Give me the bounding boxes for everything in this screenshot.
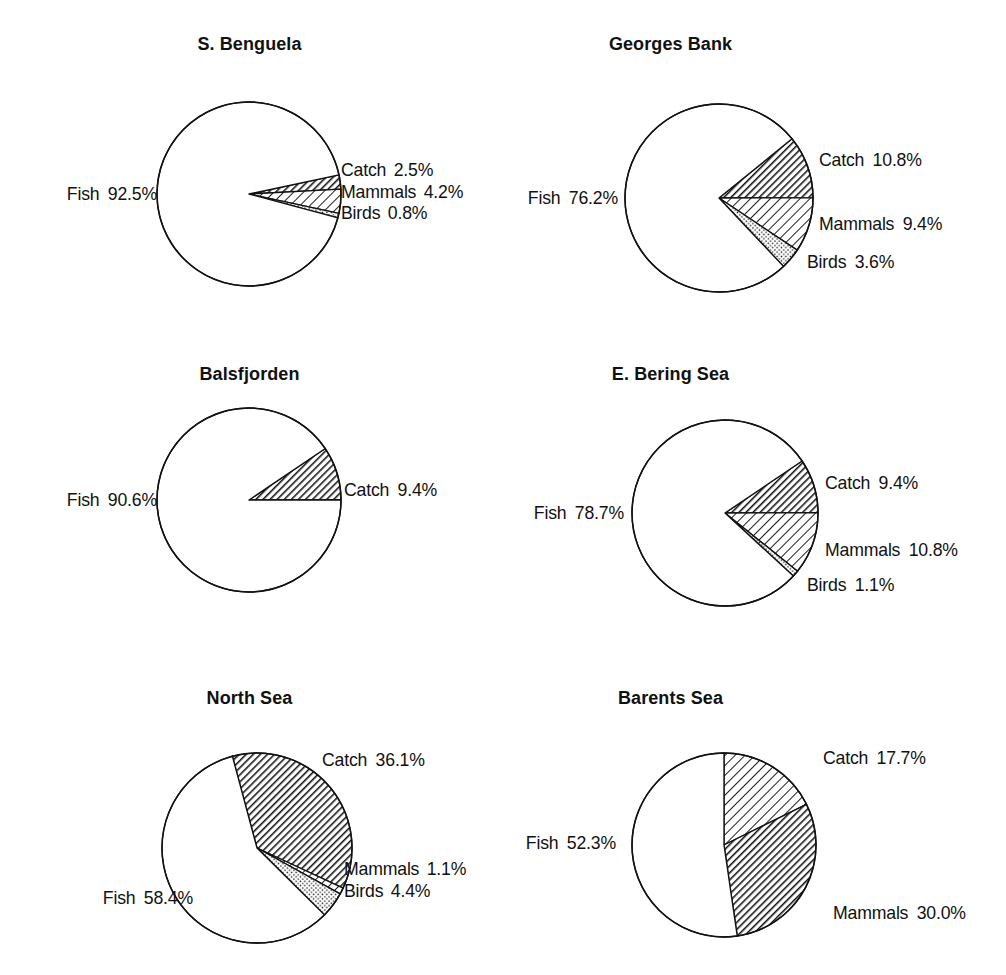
slice-name: Fish	[526, 833, 559, 853]
slice-value: 92.5%	[108, 184, 157, 204]
slice-name: Catch	[819, 150, 864, 170]
slice-name: Mammals	[341, 181, 416, 203]
slice-name: Birds	[807, 252, 846, 272]
pie-stage	[503, 330, 1006, 660]
panel-georges-bank: Georges Bank Fish76.2% Catch10.8% Mammal…	[503, 0, 1006, 330]
slice-label-mammals: Mammals4.2%	[341, 181, 463, 203]
slice-name: Catch	[322, 750, 367, 770]
slice-value: 58.4%	[144, 888, 193, 908]
slice-value: 90.6%	[108, 490, 157, 510]
slice-label-group: Catch2.5% Mammals4.2% Birds0.8%	[341, 159, 472, 224]
slice-name: Fish	[67, 184, 100, 204]
slice-label-catch: Catch10.8%	[819, 150, 922, 170]
slice-value: 9.4%	[398, 480, 438, 500]
pie-svg-e-bering-sea	[503, 330, 1006, 660]
slice-value: 52.3%	[567, 833, 616, 853]
slice-label-mammals: Mammals30.0%	[833, 903, 966, 923]
pie-slice-fish	[157, 408, 341, 592]
slice-label-birds: Birds4.4%	[344, 880, 466, 902]
slice-label-mammals: Mammals1.1%	[344, 858, 466, 880]
slice-value: 0.8%	[388, 202, 428, 224]
slice-label-catch: Catch9.4%	[344, 480, 437, 500]
pie-stage	[503, 660, 1006, 975]
pie-chart-figure: S. Benguela Fish92.5% Catch2.5% Mammals4…	[0, 0, 1006, 975]
panel-barents-sea: Barents Sea Fish52.3% Catch17.7% Mammals…	[503, 660, 1006, 975]
slice-label-mammals: Mammals10.8%	[825, 540, 958, 560]
slice-label-fish: Fish92.5%	[67, 184, 157, 204]
pie-svg-barents-sea	[503, 660, 1006, 975]
slice-label-fish: Fish76.2%	[528, 188, 618, 208]
slice-name: Fish	[67, 490, 100, 510]
slice-label-catch: Catch17.7%	[823, 748, 926, 768]
slice-value: 1.1%	[427, 858, 467, 880]
slice-value: 30.0%	[917, 903, 966, 923]
slice-value: 9.4%	[903, 214, 943, 234]
slice-name: Mammals	[344, 858, 419, 880]
panel-e-bering-sea: E. Bering Sea Fish78.7% Catch9.4% Mammal…	[503, 330, 1006, 660]
slice-name: Mammals	[833, 903, 908, 923]
slice-name: Mammals	[825, 540, 900, 560]
slice-label-fish: Fish58.4%	[103, 888, 193, 908]
pie-slice-fish	[632, 753, 737, 937]
slice-label-fish: Fish78.7%	[534, 503, 624, 523]
pie-svg-georges-bank	[503, 0, 1006, 330]
slice-name: Catch	[823, 748, 868, 768]
slice-name: Birds	[341, 202, 380, 224]
slice-label-catch: Catch36.1%	[322, 750, 425, 770]
slice-label-fish: Fish90.6%	[67, 490, 157, 510]
slice-label-birds: Birds1.1%	[807, 575, 894, 595]
slice-value: 4.4%	[391, 880, 431, 902]
pie-stage	[503, 0, 1006, 330]
slice-label-fish: Fish52.3%	[526, 833, 616, 853]
slice-name: Birds	[807, 575, 846, 595]
slice-label-birds: Birds3.6%	[807, 252, 894, 272]
slice-value: 3.6%	[855, 252, 895, 272]
slice-value: 9.4%	[879, 473, 919, 493]
slice-value: 10.8%	[909, 540, 958, 560]
slice-name: Catch	[341, 159, 386, 181]
slice-value: 76.2%	[569, 188, 618, 208]
slice-name: Fish	[528, 188, 561, 208]
slice-name: Mammals	[819, 214, 894, 234]
slice-value: 36.1%	[376, 750, 425, 770]
slice-name: Catch	[344, 480, 389, 500]
slice-value: 17.7%	[877, 748, 926, 768]
slice-label-catch: Catch2.5%	[341, 159, 463, 181]
slice-value: 10.8%	[873, 150, 922, 170]
slice-name: Fish	[103, 888, 136, 908]
slice-value: 78.7%	[575, 503, 624, 523]
slice-label-mammals: Mammals9.4%	[819, 214, 942, 234]
slice-value: 4.2%	[424, 181, 464, 203]
slice-name: Birds	[344, 880, 383, 902]
slice-value: 2.5%	[394, 159, 434, 181]
slice-label-birds: Birds0.8%	[341, 202, 463, 224]
page-footer-artifact	[0, 957, 1006, 971]
slice-name: Catch	[825, 473, 870, 493]
slice-name: Fish	[534, 503, 567, 523]
slice-label-group: Mammals1.1% Birds4.4%	[344, 858, 475, 901]
slice-value: 1.1%	[855, 575, 895, 595]
slice-label-catch: Catch9.4%	[825, 473, 918, 493]
